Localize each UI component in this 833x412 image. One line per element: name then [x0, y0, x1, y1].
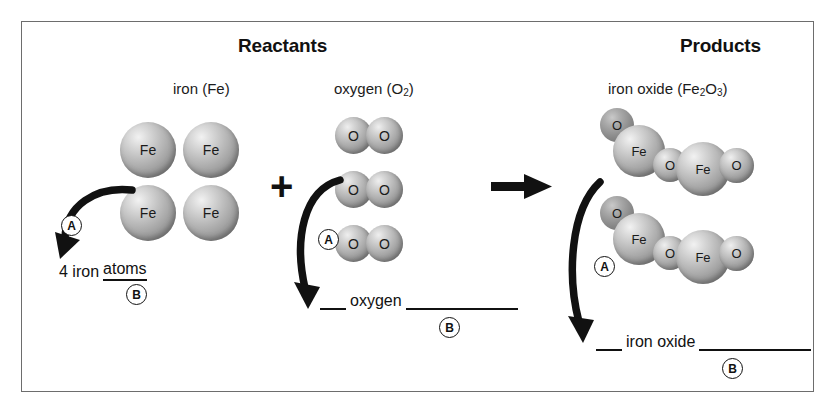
- caption-iron-oxide-suffix: ): [723, 80, 728, 97]
- atom-fe-label: Fe: [631, 145, 646, 158]
- caption-iron-oxide-prefix: iron oxide (Fe: [608, 80, 700, 97]
- caption-iron-suffix: ): [225, 80, 230, 97]
- marker-a-oxygen: A: [318, 229, 339, 250]
- atom-o-label: O: [379, 237, 390, 251]
- atom-o: O: [366, 117, 403, 154]
- caption-oxygen-prefix: oxygen (O: [334, 80, 403, 97]
- blank-iron-oxide-leading[interactable]: [596, 337, 622, 351]
- answer-iron-oxide[interactable]: iron oxide: [596, 333, 811, 351]
- blank-oxygen-trailing[interactable]: [406, 296, 518, 310]
- atom-o-label: O: [348, 237, 359, 251]
- caption-iron-oxide: iron oxide (Fe2O3): [608, 80, 728, 98]
- atom-fe-label: Fe: [695, 163, 710, 176]
- plus-operator: +: [270, 166, 293, 206]
- atom-fe: Fe: [183, 122, 239, 178]
- answer-iron-oxide-text: iron oxide: [626, 333, 695, 351]
- atom-o-label: O: [665, 159, 675, 172]
- heading-reactants: Reactants: [238, 35, 327, 57]
- caption-oxygen: oxygen (O2): [334, 80, 414, 98]
- atom-o-label: O: [612, 207, 622, 220]
- atom-fe: Fe: [120, 185, 176, 241]
- atom-o-label: O: [731, 159, 741, 172]
- atom-fe-label: Fe: [631, 233, 646, 246]
- caption-iron-prefix: iron (: [173, 80, 207, 97]
- caption-oxygen-suffix: ): [409, 80, 414, 97]
- atom-o-label: O: [379, 183, 390, 197]
- atom-fe: Fe: [120, 122, 176, 178]
- marker-b-iron: B: [126, 284, 147, 305]
- atom-o: O: [366, 171, 403, 208]
- atom-o-label: O: [731, 247, 741, 260]
- atom-o-label: O: [379, 129, 390, 143]
- answer-iron-underlined: atoms: [103, 260, 147, 281]
- atom-fe-label: Fe: [695, 251, 710, 264]
- atom-o-label: O: [665, 247, 675, 260]
- marker-a-iron-oxide: A: [594, 256, 615, 277]
- atom-fe-label: Fe: [203, 206, 219, 220]
- atom-o: O: [719, 236, 754, 271]
- atom-fe-label: Fe: [140, 143, 156, 157]
- caption-iron: iron (Fe): [173, 80, 230, 97]
- atom-o-label: O: [348, 129, 359, 143]
- answer-iron-text: 4 iron: [59, 263, 99, 281]
- answer-oxygen[interactable]: oxygen: [320, 292, 518, 310]
- blank-oxygen-leading[interactable]: [320, 296, 346, 310]
- caption-iron-symbol: Fe: [207, 80, 225, 97]
- atom-fe: Fe: [183, 185, 239, 241]
- answer-oxygen-text: oxygen: [350, 292, 402, 310]
- caption-iron-oxide-mid: O: [705, 80, 717, 97]
- atom-o: O: [719, 148, 754, 183]
- diagram-canvas: Reactants Products iron (Fe) oxygen (O2)…: [0, 0, 833, 412]
- answer-iron[interactable]: 4 iron atoms: [59, 260, 147, 281]
- heading-products: Products: [680, 35, 761, 57]
- marker-b-oxygen: B: [439, 317, 460, 338]
- marker-a-iron: A: [61, 215, 82, 236]
- atom-fe-label: Fe: [140, 206, 156, 220]
- atom-fe-label: Fe: [203, 143, 219, 157]
- atom-o-label: O: [612, 119, 622, 132]
- blank-iron-oxide-trailing[interactable]: [699, 337, 811, 351]
- atom-o: O: [366, 225, 403, 262]
- atom-o-label: O: [348, 183, 359, 197]
- marker-b-iron-oxide: B: [722, 358, 743, 379]
